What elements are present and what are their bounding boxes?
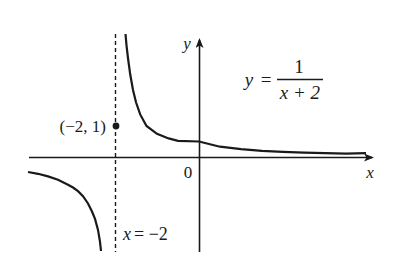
graph-canvas: (−2, 1) y x 0 y = 1 x + 2 x = −2 (0, 0, 396, 268)
equation-lhs: y (243, 69, 254, 90)
y-axis-label: y (181, 34, 191, 53)
x-axis-label: x (365, 163, 374, 182)
equation-denominator: x + 2 (279, 82, 321, 103)
equation-equals: = (261, 69, 272, 90)
asymptote-label: x = −2 (122, 224, 168, 244)
point-marker (113, 123, 120, 130)
function-equation: y = 1 x + 2 (243, 56, 323, 103)
point-label: (−2, 1) (60, 117, 106, 136)
asymptote-label-eq: = −2 (134, 224, 168, 244)
curve-upper-branch (126, 34, 367, 154)
curve-lower-branch (28, 172, 101, 251)
asymptote-label-var: x (122, 224, 131, 244)
equation-numerator: 1 (294, 56, 304, 77)
origin-label: 0 (184, 163, 193, 182)
